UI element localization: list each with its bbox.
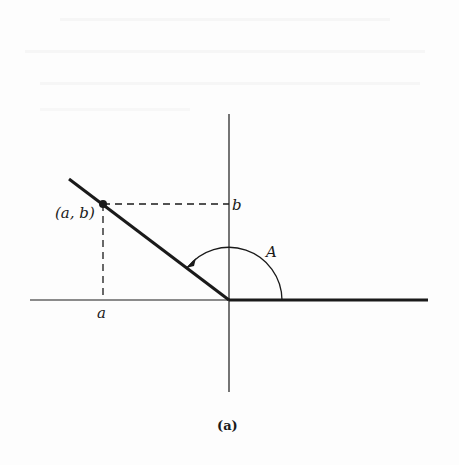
angle-diagram: (a, b) b a A (a): [0, 0, 459, 465]
y-coord-label: b: [232, 196, 242, 214]
point-ab-marker: [99, 200, 107, 208]
point-ab-label: (a, b): [55, 204, 95, 222]
figure-canvas: (a, b) b a A (a): [0, 0, 459, 465]
arc-arrowhead-icon: [186, 258, 196, 268]
angle-label: A: [264, 243, 277, 261]
bleed-through-text: [25, 18, 425, 111]
terminal-side: [69, 179, 229, 300]
x-coord-label: a: [97, 304, 106, 322]
figure-caption: (a): [217, 418, 238, 433]
